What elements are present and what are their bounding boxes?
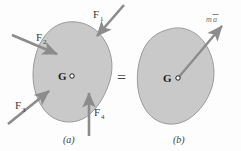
- center-of-mass-label-a: G: [58, 70, 67, 82]
- center-of-mass-marker-b: [176, 76, 180, 80]
- center-of-mass-marker-a: [70, 74, 74, 78]
- panel-a: G F 1 F 2 F 3 F 4 (a): [8, 5, 124, 146]
- rigid-body-shape-b: [137, 28, 214, 124]
- panel-b: G m a (b): [137, 15, 222, 147]
- force-label-f4-sub: 4: [101, 113, 105, 121]
- force-label-f1: F 1: [93, 8, 104, 23]
- force-label-f3-text: F: [15, 99, 21, 111]
- panel-a-caption: (a): [63, 134, 75, 146]
- force-label-f2-sub: 2: [43, 38, 47, 46]
- force-label-f4: F 4: [94, 106, 105, 121]
- force-label-f3-sub: 3: [22, 106, 26, 114]
- resultant-ma-label-a: a: [213, 15, 217, 24]
- resultant-ma-label-m: m: [206, 15, 212, 24]
- force-label-f3: F 3: [15, 99, 26, 114]
- center-of-mass-label-b: G: [163, 72, 172, 84]
- force-label-f1-text: F: [93, 8, 99, 20]
- force-label-f1-sub: 1: [100, 15, 104, 23]
- figure-root: G F 1 F 2 F 3 F 4 (a) =: [0, 0, 241, 151]
- force-label-f4-text: F: [94, 106, 100, 118]
- panel-b-caption: (b): [173, 134, 185, 146]
- resultant-ma-label: m a: [206, 15, 219, 25]
- equals-sign: =: [117, 69, 126, 86]
- force-label-f2-text: F: [36, 31, 42, 43]
- force-equivalence-diagram: G F 1 F 2 F 3 F 4 (a) =: [0, 0, 241, 151]
